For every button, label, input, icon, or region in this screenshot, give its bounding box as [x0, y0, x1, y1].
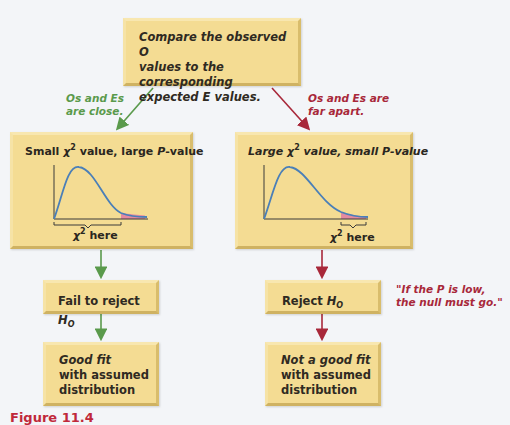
good-fit-line-1: Good fit	[59, 353, 156, 368]
small-chi-axis-label: χ2 here	[73, 227, 118, 242]
fail-to-reject-box: Fail to reject HO	[43, 280, 159, 314]
not-good-fit-box: Not a good fit with assumed distribution	[265, 342, 381, 406]
compare-line-1: Compare the observed O	[139, 30, 298, 60]
good-fit-line-3: distribution	[59, 383, 156, 398]
large-chi-axis-label: χ2 here	[330, 229, 375, 244]
not-good-fit-line-2: with assumed	[281, 368, 378, 383]
good-fit-line-2: with assumed	[59, 368, 156, 383]
reject-label: Reject HO	[282, 294, 343, 308]
good-fit-box: Good fit with assumed distribution	[43, 342, 159, 406]
chi-square-curve-large	[238, 135, 416, 252]
reject-box: Reject HO	[265, 280, 381, 314]
small-chi-square-panel: Small χ2 value, large P-value χ2 here	[10, 132, 193, 249]
compare-line-3: expected E values.	[139, 90, 298, 105]
figure-caption: Figure 11.4	[10, 410, 94, 425]
not-good-fit-line-1: Not a good fit	[281, 353, 378, 368]
large-chi-square-panel: Large χ2 value, small P-value χ2 here	[235, 132, 413, 249]
compare-box: Compare the observed O values to the cor…	[123, 18, 301, 86]
compare-line-2: values to the corresponding	[139, 60, 298, 90]
right-condition-label: Os and Es are far apart.	[308, 92, 389, 118]
mnemonic-quote: "If the P is low, the null must go."	[396, 283, 503, 309]
left-condition-label: Os and Es are close.	[66, 92, 124, 118]
not-good-fit-line-3: distribution	[281, 383, 378, 398]
